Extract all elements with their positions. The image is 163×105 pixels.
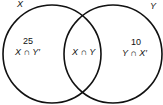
set-label-y: Y bbox=[150, 2, 156, 11]
region-y-only-count: 10 bbox=[131, 38, 141, 47]
region-both-label: X ∩ Y bbox=[72, 48, 95, 57]
region-x-only-count: 25 bbox=[23, 37, 33, 46]
region-x-only-label: X ∩ Y′ bbox=[15, 48, 40, 57]
region-y-only-label: Y ∩ X′ bbox=[122, 49, 147, 58]
set-label-x: X bbox=[17, 0, 23, 9]
